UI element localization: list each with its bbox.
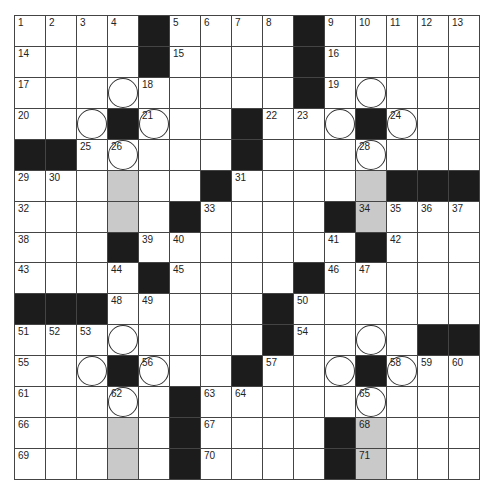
grid-square[interactable] [387,47,417,77]
grid-square[interactable] [170,109,200,139]
grid-square[interactable]: 29 [15,171,45,201]
grid-square[interactable] [325,387,355,417]
grid-square[interactable] [263,263,293,293]
grid-square[interactable] [387,418,417,448]
grid-square[interactable] [201,325,231,355]
grid-square[interactable] [325,140,355,170]
grid-square[interactable] [77,47,107,77]
grid-square[interactable] [294,233,324,263]
grid-square[interactable] [46,233,76,263]
grid-square[interactable] [232,78,262,108]
grid-square[interactable] [201,294,231,324]
grid-square[interactable] [77,233,107,263]
grid-square[interactable] [201,140,231,170]
grid-square[interactable] [77,356,107,386]
grid-square[interactable] [356,294,386,324]
grid-square[interactable] [139,449,169,479]
grid-square[interactable] [263,418,293,448]
grid-square[interactable]: 7 [232,16,262,46]
grid-square[interactable] [139,418,169,448]
grid-square[interactable] [232,294,262,324]
grid-square[interactable] [418,47,448,77]
grid-square[interactable]: 45 [170,263,200,293]
grid-square[interactable] [139,325,169,355]
grid-square[interactable] [263,202,293,232]
grid-square[interactable] [77,109,107,139]
grid-square[interactable] [449,78,479,108]
grid-square[interactable]: 10 [356,16,386,46]
grid-square[interactable]: 63 [201,387,231,417]
grid-square[interactable]: 42 [387,233,417,263]
grid-square[interactable]: 50 [294,294,324,324]
grid-square[interactable]: 35 [387,202,417,232]
grid-square[interactable] [263,449,293,479]
grid-square[interactable] [263,47,293,77]
grid-square[interactable] [46,356,76,386]
grid-square[interactable]: 53 [77,325,107,355]
grid-square[interactable]: 57 [263,356,293,386]
grid-square[interactable] [449,233,479,263]
grid-square[interactable]: 67 [201,418,231,448]
grid-square[interactable] [232,202,262,232]
grid-square[interactable] [108,78,138,108]
grid-square[interactable] [201,263,231,293]
grid-square[interactable] [356,78,386,108]
grid-square[interactable] [139,387,169,417]
grid-square[interactable]: 1 [15,16,45,46]
grid-square[interactable]: 62 [108,387,138,417]
grid-square[interactable] [387,294,417,324]
grid-square[interactable] [201,233,231,263]
grid-square[interactable] [418,387,448,417]
grid-square[interactable]: 6 [201,16,231,46]
grid-square[interactable] [294,202,324,232]
grid-square[interactable] [387,325,417,355]
grid-square[interactable] [263,387,293,417]
grid-square[interactable] [170,325,200,355]
shaded-square[interactable]: 71 [356,449,386,479]
grid-square[interactable] [418,263,448,293]
grid-square[interactable] [46,387,76,417]
grid-square[interactable]: 69 [15,449,45,479]
shaded-square[interactable] [108,202,138,232]
grid-square[interactable]: 32 [15,202,45,232]
grid-square[interactable] [232,449,262,479]
grid-square[interactable]: 24 [387,109,417,139]
grid-square[interactable] [325,356,355,386]
grid-square[interactable]: 51 [15,325,45,355]
grid-square[interactable] [263,171,293,201]
grid-square[interactable] [449,109,479,139]
shaded-square[interactable] [108,418,138,448]
grid-square[interactable]: 43 [15,263,45,293]
grid-square[interactable] [449,263,479,293]
grid-square[interactable]: 47 [356,263,386,293]
grid-square[interactable] [170,140,200,170]
grid-square[interactable]: 64 [232,387,262,417]
grid-square[interactable] [77,418,107,448]
grid-square[interactable] [294,171,324,201]
grid-square[interactable] [77,78,107,108]
grid-square[interactable] [325,171,355,201]
grid-square[interactable]: 54 [294,325,324,355]
grid-square[interactable] [418,78,448,108]
grid-square[interactable]: 12 [418,16,448,46]
grid-square[interactable] [139,140,169,170]
grid-square[interactable] [387,78,417,108]
grid-square[interactable] [201,47,231,77]
shaded-square[interactable] [108,449,138,479]
grid-square[interactable] [449,47,479,77]
grid-square[interactable]: 52 [46,325,76,355]
grid-square[interactable]: 58 [387,356,417,386]
grid-square[interactable] [356,325,386,355]
grid-square[interactable]: 11 [387,16,417,46]
grid-square[interactable] [356,47,386,77]
grid-square[interactable] [263,233,293,263]
grid-square[interactable]: 30 [46,171,76,201]
grid-square[interactable]: 25 [77,140,107,170]
grid-square[interactable] [294,140,324,170]
grid-square[interactable] [232,325,262,355]
grid-square[interactable]: 65 [356,387,386,417]
shaded-square[interactable] [108,171,138,201]
grid-square[interactable] [232,418,262,448]
grid-square[interactable] [294,356,324,386]
grid-square[interactable]: 4 [108,16,138,46]
